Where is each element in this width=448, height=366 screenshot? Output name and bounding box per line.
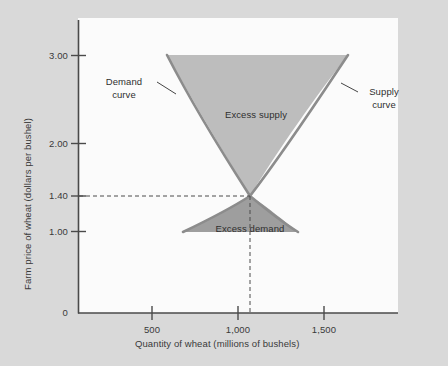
demand-curve-label-line1: Demand (88, 75, 160, 88)
demand-curve-label: Demand curve (88, 75, 160, 101)
y-axis-title: Farm price of wheat (dollars per bushel) (22, 118, 33, 290)
x-axis-title: Quantity of wheat (millions of bushels) (135, 338, 299, 349)
excess-demand-label: Excess demand (190, 222, 310, 235)
x-tick-label-1500: 1,500 (294, 324, 354, 335)
excess-supply-region (167, 55, 348, 196)
x-tick-label-500: 500 (122, 324, 182, 335)
supply-curve-label: Supply curve (356, 85, 412, 111)
y-tick-label-300: 3.00 (26, 50, 68, 61)
supply-curve-label-line2: curve (356, 98, 412, 111)
y-tick-label-0: 0 (26, 307, 68, 318)
demand-curve-label-line2: curve (88, 88, 160, 101)
supply-curve-label-line1: Supply (356, 85, 412, 98)
figure-container: 3.00 2.00 1.40 1.00 0 500 1,000 1,500 Fa… (0, 0, 448, 366)
x-tick-label-1000: 1,000 (208, 324, 268, 335)
excess-supply-label: Excess supply (200, 108, 312, 121)
